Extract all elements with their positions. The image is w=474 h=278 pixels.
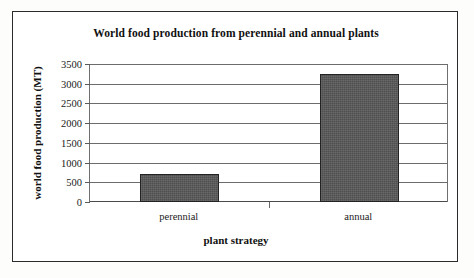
y-tick-mark <box>85 123 90 124</box>
y-tick-label: 2500 <box>61 98 82 109</box>
y-axis-title: world food production (MT) <box>31 64 43 202</box>
y-tick-mark <box>85 163 90 164</box>
gridline <box>90 64 447 65</box>
y-tick-mark <box>85 64 90 65</box>
chart-screenshot: World food production from perennial and… <box>0 0 474 278</box>
y-tick-label: 0 <box>77 197 82 208</box>
y-tick-mark <box>85 143 90 144</box>
bar-annual <box>320 74 399 202</box>
y-tick-mark <box>85 103 90 104</box>
y-tick-mark <box>85 182 90 183</box>
x-category-label-perennial: perennial <box>159 211 198 222</box>
y-tick-label: 2000 <box>61 118 82 129</box>
y-tick-mark <box>85 84 90 85</box>
x-category-label-annual: annual <box>344 211 372 222</box>
x-axis-title: plant strategy <box>13 234 459 246</box>
y-tick-label: 3000 <box>61 78 82 89</box>
y-tick-label: 1000 <box>61 157 82 168</box>
bar-perennial <box>140 174 219 202</box>
y-tick-label: 3500 <box>61 59 82 70</box>
plot-area: 0500100015002000250030003500 <box>89 64 448 202</box>
category-divider-tick <box>269 202 270 208</box>
y-tick-label: 1500 <box>61 137 82 148</box>
y-tick-mark <box>85 202 90 203</box>
chart-title: World food production from perennial and… <box>13 27 459 39</box>
y-tick-label: 500 <box>66 177 82 188</box>
chart-frame: World food production from perennial and… <box>12 11 458 262</box>
